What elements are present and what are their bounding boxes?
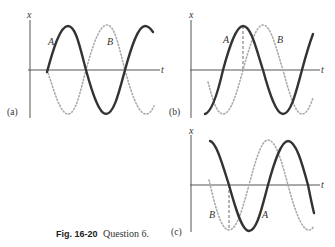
- caption-figure-number: Fig. 16-20: [56, 229, 98, 239]
- label-b: B: [107, 36, 113, 47]
- caption-text: Question 6.: [103, 228, 149, 239]
- x-axis-label: x: [188, 9, 194, 20]
- panel-c: B A x t (c): [171, 125, 324, 238]
- label-a: A: [261, 209, 269, 220]
- panel-label-a: (a): [7, 107, 18, 118]
- x-axis-label: x: [188, 125, 194, 136]
- panel-label-b: (b): [169, 107, 180, 118]
- label-b: B: [277, 34, 283, 45]
- label-b: B: [209, 209, 215, 220]
- figure-16-20: A B x t (a) A B x t (b) B A x t (c) Fig.…: [0, 0, 335, 247]
- t-axis-label: t: [321, 64, 324, 75]
- caption: Fig. 16-20 Question 6.: [56, 228, 149, 239]
- panel-b: A B x t (b): [169, 9, 324, 118]
- t-axis-label: t: [161, 64, 164, 75]
- panel-label-c: (c): [171, 227, 182, 238]
- x-axis-label: x: [26, 9, 32, 20]
- t-axis-label: t: [321, 179, 324, 190]
- label-a: A: [47, 36, 55, 47]
- label-a: A: [222, 34, 230, 45]
- panel-a: A B x t (a): [7, 9, 164, 118]
